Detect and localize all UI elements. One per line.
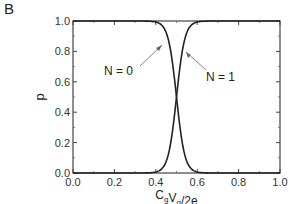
chart: 0.00.20.40.60.81.00.00.20.40.60.81.0 N =… [0,0,289,204]
annotation-n0: N = 0 [104,64,133,78]
x-tick-label: 0.6 [190,176,205,188]
annotations: N = 0N = 1 [104,45,235,84]
arrowhead-n1 [186,52,191,58]
curve-n1 [73,21,280,173]
axis-ticks: 0.00.20.40.60.81.00.00.20.40.60.81.0 [55,15,288,188]
y-tick-label: 1.0 [55,15,70,27]
x-tick-label: 0.2 [107,176,122,188]
y-tick-label: 0.6 [55,76,70,88]
x-tick-label: 0.8 [231,176,246,188]
curves [73,21,280,173]
y-tick-label: 0.8 [55,45,70,57]
y-axis-label: p [32,93,47,100]
x-tick-label: 0.4 [148,176,163,188]
y-tick-label: 0.4 [55,106,70,118]
annotation-n1: N = 1 [206,70,235,84]
y-tick-label: 0.0 [55,167,70,179]
y-tick-label: 0.2 [55,137,70,149]
x-axis-label: CgVg/2e [155,188,198,204]
x-tick-label: 1.0 [272,176,287,188]
